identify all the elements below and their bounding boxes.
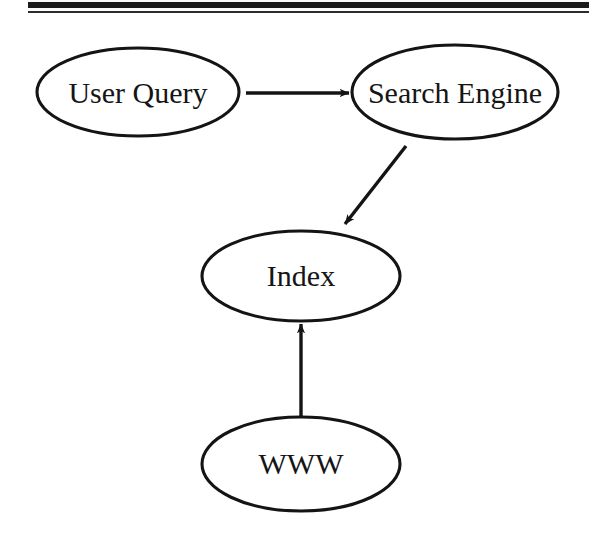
node-user-query xyxy=(37,48,239,136)
node-search-engine xyxy=(352,45,558,139)
edge-search-engine-to-index xyxy=(345,146,406,224)
node-www xyxy=(202,417,400,511)
figure-page: User Query Search Engine Index WWW xyxy=(0,0,589,534)
search-engine-architecture-diagram xyxy=(0,0,589,534)
node-index xyxy=(202,231,400,321)
